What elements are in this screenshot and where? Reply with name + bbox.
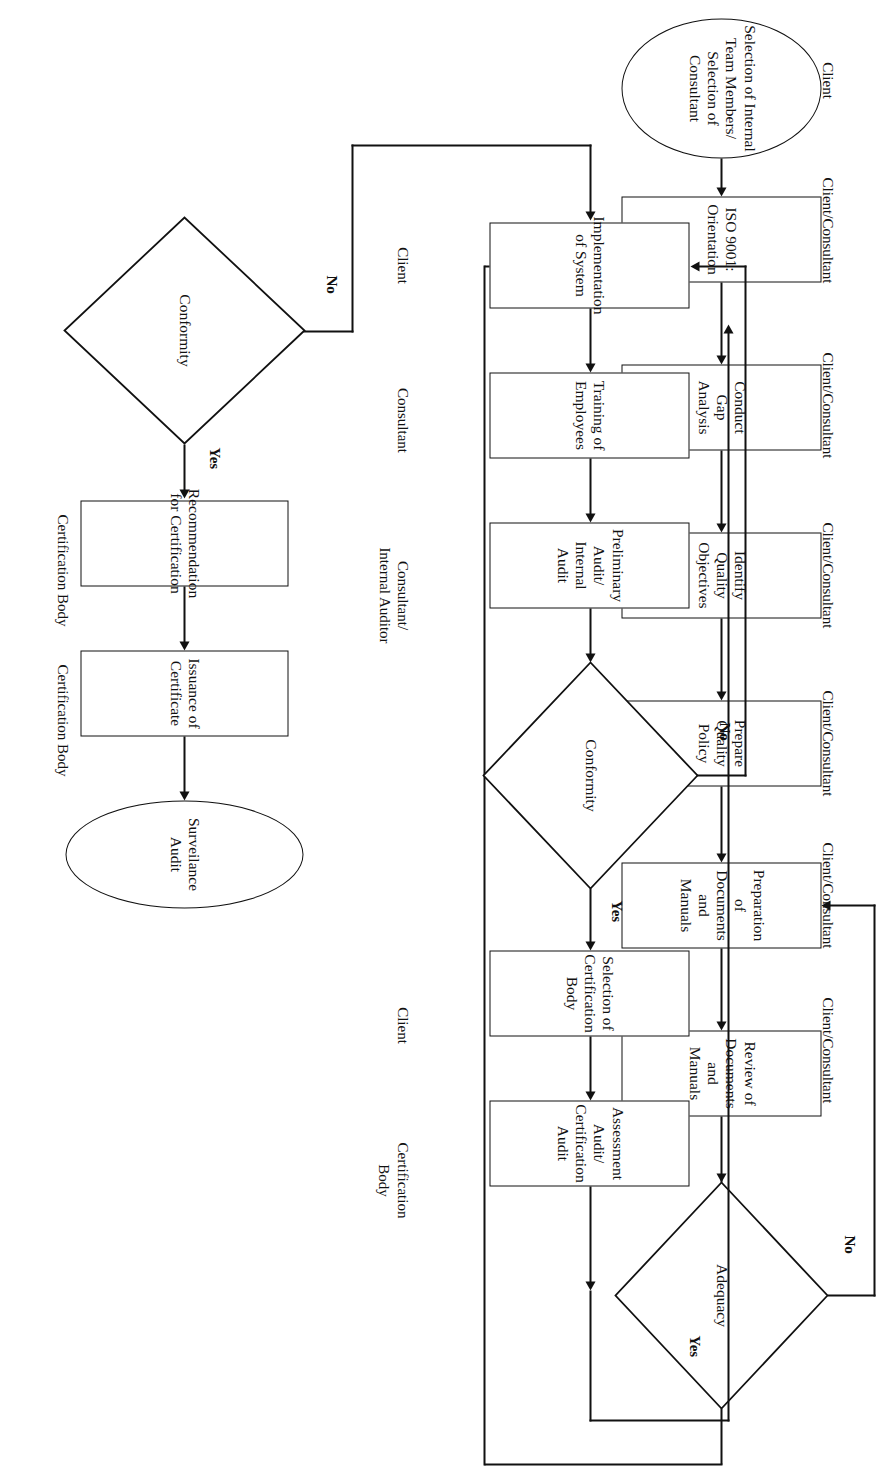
arrowhead-issue-to-surv [179, 791, 189, 800]
connector-impl-to-train [589, 308, 591, 364]
flowchart-root: Client Client/Consultant Client/Consulta… [0, 0, 881, 1474]
arrowhead-obj-to-policy [716, 691, 726, 700]
connector-conformity1-no-up [696, 774, 746, 776]
connector-adequacy-no-left [873, 904, 875, 1296]
label-adequacy-yes: Yes [686, 1335, 701, 1357]
arrowhead-selcb-to-assess [585, 1091, 595, 1100]
connector-adequacy-yes-right [720, 1408, 722, 1464]
arrowhead-conformity2-no [585, 211, 595, 220]
node-conformity-1-decision[interactable]: Conformity [481, 660, 699, 890]
arrowhead-policy-to-prep [716, 853, 726, 862]
node-assessment-audit[interactable]: Assessment Audit/ Certification Audit [489, 1100, 689, 1186]
node-conformity-2-decision[interactable]: Conformity [62, 215, 306, 445]
connector-iso-to-gap [720, 282, 722, 356]
connector-row2-to-row3-top [589, 1290, 591, 1421]
role-label-r2-2: Consultant [393, 350, 411, 490]
arrowhead-adequacy-no [821, 900, 830, 910]
label-conformity2-no: No [323, 275, 338, 293]
connector-row1-to-row2-vertical [484, 1463, 722, 1465]
connector-assess-out [589, 1186, 591, 1282]
connector-start-to-iso [720, 158, 722, 188]
role-label-r3-2: Certification Body [52, 660, 71, 780]
connector-issue-to-surv [183, 736, 185, 792]
connector-conformity2-yes [183, 444, 185, 490]
role-label-r3-1: Certification Body [52, 510, 71, 630]
connector-row2-to-row3-vertical [589, 1419, 729, 1421]
arrowhead-conformity2-yes [179, 489, 189, 498]
label-conformity2-yes: Yes [206, 447, 221, 469]
connector-conformity2-no-down [351, 144, 591, 146]
arrowhead-prelim-to-conformity1 [585, 653, 595, 662]
connector-prelim-to-conformity1 [589, 608, 591, 654]
connector-conformity1-no-left [744, 265, 746, 776]
connector-conformity2-no-left [351, 144, 353, 332]
arrowhead-train-to-prelim [585, 513, 595, 522]
diagram-canvas: Client Client/Consultant Client/Consulta… [0, 0, 881, 1474]
role-label-r2-4: Client [393, 965, 411, 1085]
connector-conformity2-no-up [303, 330, 353, 332]
role-label-r2-3: Consultant/ Internal Auditor [375, 520, 411, 670]
connector-obj-to-policy [720, 618, 722, 692]
connector-prep-to-review [720, 948, 722, 1022]
arrowhead-prep-to-review [716, 1021, 726, 1030]
arrowhead-gap-to-obj [716, 523, 726, 532]
connector-row2-to-row3-horizontal [727, 330, 729, 1421]
connector-adequacy-no-down [829, 904, 875, 906]
connector-review-to-adequacy [720, 1116, 722, 1182]
label-adequacy-no: No [841, 1235, 856, 1253]
node-selection-of-certification-body[interactable]: Selection of Certification Body [489, 950, 689, 1036]
node-implementation-of-system[interactable]: Implementation of System [489, 222, 689, 308]
arrowhead-conformity1-yes [585, 941, 595, 950]
connector-adequacy-no-up [827, 1294, 875, 1296]
role-label-r2-5: Certification Body [374, 1125, 412, 1235]
node-selection-of-internal-team[interactable]: Selection of Internal Team Members/ Sele… [621, 18, 821, 158]
node-issuance-of-certificate[interactable]: Issuance of Certificate [80, 650, 288, 736]
node-preliminary-audit[interactable]: Preliminary Audit/ Internal Audit [489, 522, 689, 608]
label-conformity1-yes: Yes [608, 900, 623, 922]
node-adequacy-decision[interactable]: Adequacy [613, 1180, 829, 1410]
connector-conformity1-no-down [698, 265, 746, 267]
arrowhead-row2-to-row3 [723, 324, 733, 333]
node-recommendation-for-certification[interactable]: Recommendation for Certification [80, 500, 288, 586]
connector-conformity1-yes [589, 888, 591, 942]
arrowhead-assess-out [585, 1281, 595, 1290]
arrowhead-iso-to-gap [716, 355, 726, 364]
connector-conformity2-no-to-impl [589, 144, 591, 212]
arrowhead-conformity1-no [690, 261, 699, 271]
connector-train-to-prelim [589, 458, 591, 514]
role-label-r2-1: Client [393, 205, 411, 325]
node-training-of-employees[interactable]: Training of Employees [489, 372, 689, 458]
arrowhead-impl-to-train [585, 363, 595, 372]
node-surveilance-audit[interactable]: Surveilance Audit [65, 800, 303, 908]
connector-gap-to-obj [720, 450, 722, 524]
connector-policy-to-prep [720, 786, 722, 854]
arrowhead-recom-to-issue [179, 641, 189, 650]
connector-recom-to-issue [183, 586, 185, 642]
connector-selcb-to-assess [589, 1036, 591, 1092]
arrowhead-review-to-adequacy [716, 1173, 726, 1182]
arrowhead-start-to-iso [716, 187, 726, 196]
